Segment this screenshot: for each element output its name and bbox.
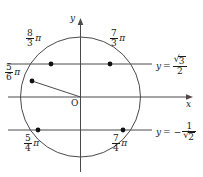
negative-sign: − <box>173 128 183 137</box>
x-axis-label: x <box>186 100 191 109</box>
equation-label-lower: y=− 1 √2 <box>156 122 196 142</box>
fraction-denominator: 3 <box>26 39 34 48</box>
fraction-5-4: 5 4 <box>24 134 32 153</box>
origin-label: O <box>71 99 78 108</box>
fraction-denominator: 4 <box>24 144 32 153</box>
fraction-sqrt3-over-2: √3 2 <box>173 56 187 76</box>
fraction-8-3: 8 3 <box>26 29 34 48</box>
equation-label-upper: y= √3 2 <box>156 56 187 76</box>
fraction-denominator: 6 <box>5 73 13 82</box>
fraction-denominator: 3 <box>110 39 118 48</box>
pi-symbol: π <box>13 68 20 77</box>
fraction-7-3: 7 3 <box>110 29 118 48</box>
angle-label-5-4-pi: 5 4 π <box>24 134 39 153</box>
fraction-1-over-sqrt2: 1 √2 <box>182 122 196 142</box>
radical-expression: √3 <box>174 56 186 66</box>
point-marker-7-3-pi <box>108 62 113 67</box>
angle-label-8-3-pi: 8 3 π <box>26 29 41 48</box>
pi-symbol: π <box>34 34 41 43</box>
pi-symbol: π <box>120 139 127 148</box>
fraction-numerator: √3 <box>173 56 187 67</box>
equation-equals: = <box>161 61 173 71</box>
fraction-denominator: √2 <box>182 132 196 142</box>
angle-label-5-6-pi: 5 6 π <box>5 63 20 82</box>
fraction-denominator: 2 <box>173 67 187 76</box>
radical-sign: √ <box>174 55 180 64</box>
pi-symbol: π <box>32 139 39 148</box>
pi-symbol: π <box>118 34 125 43</box>
fraction-7-4: 7 4 <box>112 134 120 153</box>
radical-sign: √ <box>183 131 189 140</box>
fraction-5-6: 5 6 <box>5 63 13 82</box>
point-marker-5-6-pi <box>30 79 35 84</box>
point-marker-8-3-pi <box>49 62 54 67</box>
equation-equals: = <box>161 127 173 137</box>
point-marker-5-4-pi <box>36 128 41 133</box>
angle-label-7-3-pi: 7 3 π <box>110 29 125 48</box>
y-axis-arrowhead <box>78 18 84 25</box>
radical-expression: √2 <box>183 132 195 142</box>
angle-label-7-4-pi: 7 4 π <box>112 134 127 153</box>
radius-segment <box>32 81 81 97</box>
fraction-denominator: 4 <box>112 144 120 153</box>
y-axis-label: y <box>70 14 75 23</box>
point-marker-7-4-pi <box>121 128 126 133</box>
unit-circle-figure: 8 3 π 7 3 π 5 6 π 5 4 π 7 4 π y= √3 2 <box>0 0 203 177</box>
